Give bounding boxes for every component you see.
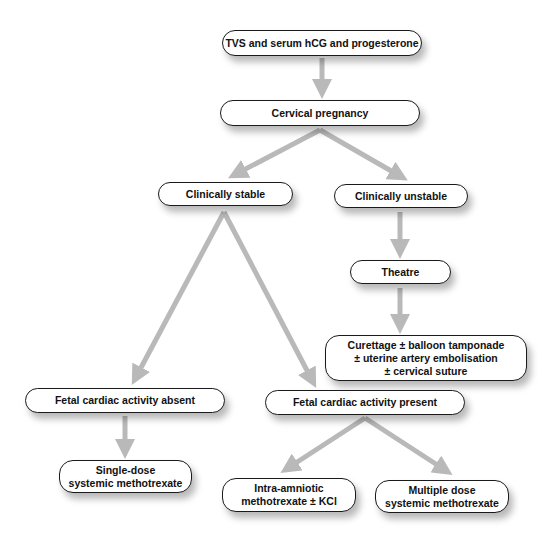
node-label: Fetal cardiac activity absent <box>55 394 195 407</box>
node-label: Theatre <box>382 266 420 279</box>
node-multiple-dose-methotrexate: Multiple dose systemic methotrexate <box>375 480 509 513</box>
node-tvs-hcg-progesterone: TVS and serum hCG and progesterone <box>222 30 422 56</box>
node-clinically-unstable: Clinically unstable <box>334 184 468 208</box>
node-label: Curettage ± balloon tamponade ± uterine … <box>348 339 505 378</box>
flow-arrows <box>0 0 554 539</box>
arrow-cervical-to-unstable <box>320 130 400 176</box>
node-label: Cervical pregnancy <box>272 107 369 120</box>
node-label: Multiple dose systemic methotrexate <box>385 484 499 510</box>
node-fetal-cardiac-present: Fetal cardiac activity present <box>265 390 465 415</box>
node-cervical-pregnancy: Cervical pregnancy <box>220 100 420 126</box>
node-label: TVS and serum hCG and progesterone <box>225 37 418 50</box>
node-fetal-cardiac-absent: Fetal cardiac activity absent <box>25 388 225 413</box>
arrow-stable-to-absent <box>136 212 224 377</box>
node-intra-amniotic-methotrexate: Intra-amniotic methotrexate ± KCl <box>222 478 356 512</box>
node-single-dose-methotrexate: Single-dose systemic methotrexate <box>59 460 192 493</box>
node-label: Single-dose systemic methotrexate <box>69 464 183 490</box>
node-label: Clinically stable <box>186 188 265 201</box>
arrow-present-to-intra <box>288 418 365 468</box>
arrow-stable-to-present <box>224 212 312 380</box>
node-label: Clinically unstable <box>355 190 447 203</box>
node-clinically-stable: Clinically stable <box>158 182 293 206</box>
node-curettage: Curettage ± balloon tamponade ± uterine … <box>325 335 527 381</box>
node-label: Fetal cardiac activity present <box>293 396 437 409</box>
node-label: Intra-amniotic methotrexate ± KCl <box>241 482 337 508</box>
arrow-present-to-multiple <box>365 418 445 470</box>
node-theatre: Theatre <box>350 260 451 284</box>
arrow-cervical-to-stable <box>236 130 320 174</box>
